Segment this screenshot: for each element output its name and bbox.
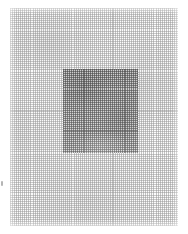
inner-dark-grid-square bbox=[63, 69, 138, 153]
left-edge-speck bbox=[1, 181, 3, 186]
image-canvas bbox=[0, 0, 188, 234]
